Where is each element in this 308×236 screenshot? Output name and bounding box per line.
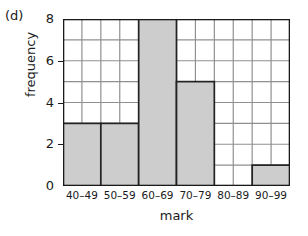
x-axis-title: mark — [63, 208, 290, 223]
x-axis-ticks: 40–4950–5960–6970–7980–8990–99 — [63, 189, 290, 207]
y-tick-label: 6 — [36, 54, 54, 67]
y-tick-label: 2 — [36, 137, 54, 150]
histogram-figure: (d) frequency 02468 40–4950–5960–6970–79… — [0, 0, 308, 236]
y-tick-label: 8 — [36, 12, 54, 25]
x-tick-label: 70–79 — [177, 189, 215, 202]
y-tick-label: 4 — [36, 96, 54, 109]
x-tick-label: 50–59 — [101, 189, 139, 202]
plot-frame-rect — [64, 20, 290, 186]
x-tick-label: 40–49 — [63, 189, 101, 202]
x-tick-label: 90–99 — [252, 189, 290, 202]
x-tick-label: 80–89 — [214, 189, 252, 202]
axis-frame — [63, 19, 290, 186]
plot-area — [63, 19, 290, 186]
x-tick-label: 60–69 — [139, 189, 177, 202]
y-tick-label: 0 — [36, 179, 54, 192]
